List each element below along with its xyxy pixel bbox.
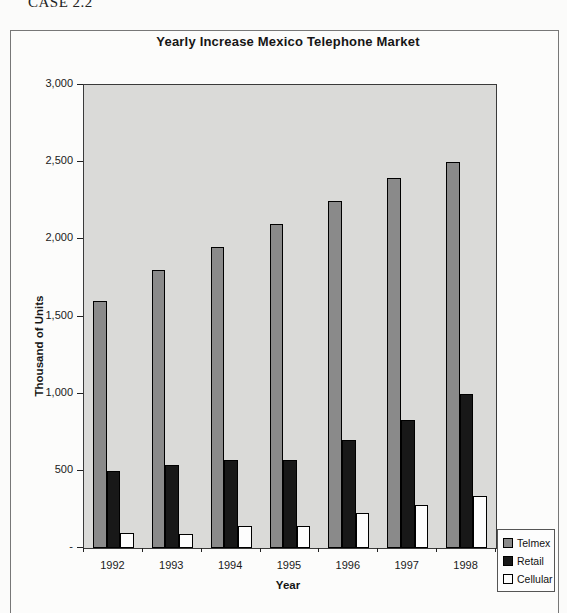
legend-swatch-cellular <box>503 574 513 584</box>
x-axis-tick <box>377 548 378 552</box>
x-axis-category-label: 1997 <box>377 559 436 571</box>
legend-label: Cellular <box>517 573 553 585</box>
y-axis-tick <box>77 238 83 239</box>
legend-items: TelmexRetailCellular <box>503 534 554 588</box>
bar-telmex-1994 <box>211 247 225 548</box>
bar-cellular-1992 <box>120 533 134 548</box>
bar-retail-1992 <box>107 471 121 548</box>
x-axis-title: Year <box>81 579 495 591</box>
x-axis-tick <box>201 548 202 552</box>
y-axis-tick-label: 1,000 <box>21 386 73 398</box>
bar-telmex-1996 <box>328 201 342 548</box>
bar-cellular-1995 <box>297 526 311 548</box>
legend-item-retail: Retail <box>503 552 554 570</box>
x-axis-tick <box>318 548 319 552</box>
bar-cellular-1994 <box>238 526 252 548</box>
y-axis-title: Thousand of Units <box>33 115 49 578</box>
y-axis-tick-label: 500 <box>21 463 73 475</box>
bar-retail-1996 <box>342 440 356 548</box>
legend-swatch-retail <box>503 556 513 566</box>
bar-cellular-1993 <box>179 534 193 548</box>
scanned-page: CASE 2.2 Yearly Increase Mexico Telephon… <box>0 0 567 613</box>
chart-title: Yearly Increase Mexico Telephone Market <box>81 34 495 49</box>
y-axis-tick <box>77 393 83 394</box>
legend-label: Retail <box>517 555 544 567</box>
bar-retail-1997 <box>401 420 415 548</box>
case-label: CASE 2.2 <box>28 0 93 11</box>
bar-retail-1994 <box>224 460 238 548</box>
legend-item-cellular: Cellular <box>503 570 554 588</box>
bar-cellular-1996 <box>356 513 370 548</box>
x-axis-tick <box>495 548 496 552</box>
bar-telmex-1998 <box>446 162 460 548</box>
x-axis-tick <box>83 548 84 552</box>
legend-swatch-telmex <box>503 538 513 548</box>
x-axis-category-label: 1995 <box>260 559 319 571</box>
bar-cellular-1997 <box>415 505 429 548</box>
legend-item-telmex: Telmex <box>503 534 554 552</box>
bar-telmex-1993 <box>152 270 166 548</box>
y-axis-tick <box>77 161 83 162</box>
chart-frame: Yearly Increase Mexico Telephone Market … <box>10 30 559 613</box>
y-axis-tick <box>77 316 83 317</box>
y-axis-tick-label: 2,000 <box>21 231 73 243</box>
bar-telmex-1997 <box>387 178 401 548</box>
y-axis-tick-label: 1,500 <box>21 309 73 321</box>
x-axis-tick <box>436 548 437 552</box>
bar-retail-1995 <box>283 460 297 548</box>
y-axis-tick-label: - <box>21 540 73 552</box>
legend: TelmexRetailCellular <box>497 529 555 592</box>
x-axis-category-label: 1996 <box>318 559 377 571</box>
y-axis-tick <box>77 84 83 85</box>
y-axis-tick <box>77 470 83 471</box>
legend-label: Telmex <box>517 537 550 549</box>
x-axis-category-label: 1998 <box>436 559 495 571</box>
x-axis-tick <box>142 548 143 552</box>
bar-retail-1993 <box>165 465 179 548</box>
x-axis-tick <box>260 548 261 552</box>
bar-cellular-1998 <box>473 496 487 548</box>
y-axis-tick-label: 2,500 <box>21 154 73 166</box>
bar-telmex-1995 <box>270 224 284 548</box>
x-axis-category-label: 1992 <box>83 559 142 571</box>
bar-telmex-1992 <box>93 301 107 548</box>
y-axis-tick-label: 3,000 <box>21 77 73 89</box>
x-axis-category-label: 1994 <box>201 559 260 571</box>
plot-area <box>83 84 497 549</box>
x-axis-category-label: 1993 <box>142 559 201 571</box>
bar-retail-1998 <box>460 394 474 548</box>
